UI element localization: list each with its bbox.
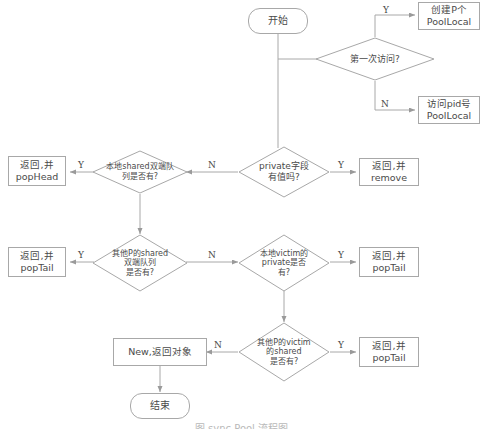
edge-label-other-shared-no: N xyxy=(208,250,216,260)
node-end: 结束 xyxy=(130,393,190,419)
node-new-return-object: New,返回对象 xyxy=(113,338,207,366)
node-private-has-value: private字段 有值吗? xyxy=(238,146,330,198)
node-first-visit: 第一次访问? xyxy=(315,37,435,81)
node-victim-private-line2: private是否 xyxy=(260,258,309,268)
node-local-shared-line1: 本地shared双端队 xyxy=(106,162,173,172)
node-other-shared-line1: 其他P的shared xyxy=(112,249,168,259)
node-other-p-victim-shared-label: 其他P的victim 的shared 是否有? xyxy=(238,322,330,382)
edge-label-other-shared-yes: Y xyxy=(78,250,84,260)
edge-label-victim-shared-no: N xyxy=(214,340,222,350)
node-private-line2: 有值吗? xyxy=(259,172,309,183)
node-end-label: 结束 xyxy=(150,400,170,413)
node-return-poptail-bottom: 返回,并 popTail xyxy=(359,337,419,367)
node-return-remove: 返回,并 remove xyxy=(359,158,419,186)
node-access-pid-line1: 访问pid号 xyxy=(427,98,472,110)
node-victim-shared-line2: 的shared xyxy=(257,347,310,357)
node-access-pid-poollocal: 访问pid号 PoolLocal xyxy=(418,96,480,124)
edge-label-private-no: N xyxy=(208,160,216,170)
node-other-shared-line2: 双端队列 xyxy=(112,258,168,268)
node-other-p-shared-deque: 其他P的shared 双端队列 是否有? xyxy=(92,234,188,292)
node-victim-private-line3: 有? xyxy=(260,268,309,278)
node-return-poptail-left-line2: popTail xyxy=(20,262,53,274)
edge-label-victim-shared-yes: Y xyxy=(338,340,344,350)
edge-label-first-visit-yes: Y xyxy=(383,5,389,15)
node-private-line1: private字段 xyxy=(259,161,309,172)
node-new-return-object-label: New,返回对象 xyxy=(128,346,192,358)
node-return-poptail-left-line1: 返回,并 xyxy=(20,250,53,262)
node-return-remove-line2: remove xyxy=(371,172,407,184)
node-return-poptail-mid-line1: 返回,并 xyxy=(372,250,405,262)
edge-label-victim-private-yes: Y xyxy=(338,250,344,260)
node-create-poollocal-line1: 创建P个 xyxy=(431,4,467,16)
node-return-pophead-line2: popHead xyxy=(16,171,59,183)
node-return-poptail-mid: 返回,并 popTail xyxy=(359,247,419,277)
node-victim-shared-line1: 其他P的victim xyxy=(257,338,310,348)
node-create-poollocal-line2: PoolLocal xyxy=(427,16,471,28)
flowchart-canvas: 开始 第一次访问? 创建P个 PoolLocal 访问pid号 PoolLoca… xyxy=(0,0,483,429)
edge-label-private-yes: Y xyxy=(338,160,344,170)
node-local-shared-deque-label: 本地shared双端队 列是否有? xyxy=(92,150,188,194)
node-other-p-victim-shared: 其他P的victim 的shared 是否有? xyxy=(238,322,330,382)
node-first-visit-label: 第一次访问? xyxy=(315,37,435,81)
node-access-pid-line2: PoolLocal xyxy=(427,110,471,122)
node-other-p-shared-label: 其他P的shared 双端队列 是否有? xyxy=(92,234,188,292)
node-return-remove-line1: 返回,并 xyxy=(372,160,405,172)
edge-label-local-shared-yes: Y xyxy=(78,160,84,170)
node-local-victim-private-label: 本地victim的 private是否 有? xyxy=(238,234,330,292)
node-local-shared-deque: 本地shared双端队 列是否有? xyxy=(92,150,188,194)
node-local-victim-private: 本地victim的 private是否 有? xyxy=(238,234,330,292)
node-start: 开始 xyxy=(248,8,308,34)
node-other-shared-line3: 是否有? xyxy=(112,268,168,278)
figure-caption: 图 sync.Pool 流程图 xyxy=(0,420,483,429)
node-return-poptail-bottom-line1: 返回,并 xyxy=(372,340,405,352)
node-local-shared-line2: 列是否有? xyxy=(106,172,173,182)
node-return-poptail-left: 返回,并 popTail xyxy=(8,247,66,277)
node-return-pophead: 返回,并 popHead xyxy=(8,156,66,186)
node-victim-private-line1: 本地victim的 xyxy=(260,249,309,259)
node-start-label: 开始 xyxy=(268,15,288,28)
node-return-poptail-bottom-line2: popTail xyxy=(372,352,405,364)
node-create-poollocal: 创建P个 PoolLocal xyxy=(418,2,480,30)
node-private-has-value-label: private字段 有值吗? xyxy=(238,146,330,198)
node-victim-shared-line3: 是否有? xyxy=(257,357,310,367)
node-return-poptail-mid-line2: popTail xyxy=(372,262,405,274)
edge-first-visit-yes xyxy=(375,15,415,37)
edge-label-first-visit-no: N xyxy=(381,99,389,109)
node-return-pophead-line1: 返回,并 xyxy=(20,159,53,171)
node-first-visit-line1: 第一次访问? xyxy=(350,54,400,65)
